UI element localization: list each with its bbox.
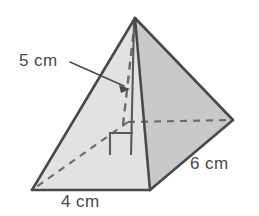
pyramid-diagram bbox=[0, 0, 259, 216]
dimension-label-base-width: 4 cm bbox=[61, 193, 99, 210]
dimension-label-slant-height: 5 cm bbox=[19, 52, 57, 69]
dimension-label-base-depth: 6 cm bbox=[190, 155, 228, 172]
figure-canvas: 5 cm 4 cm 6 cm bbox=[0, 0, 259, 216]
